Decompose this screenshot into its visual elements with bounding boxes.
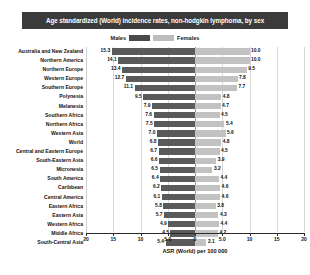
male-value-label: 7.9 [144,104,151,109]
table-row: Western Africa4.94.4 [0,220,310,229]
category-label: Eastern Asia [0,213,86,218]
female-bar-group: 4.8 [195,139,229,145]
female-bar [195,185,220,191]
female-bar-group: 4.6 [195,185,228,191]
bar-pair: 5.74.3 [86,211,304,220]
female-value-label: 9.5 [248,67,255,72]
bar-pair: 6.44.4 [86,174,304,183]
bar-pair: 6.84.8 [86,138,304,147]
male-bar [112,48,195,54]
category-label: World [0,140,86,145]
category-label: Southern Europe [0,85,86,90]
male-value-label: 11.1 [124,85,133,90]
legend-swatch-females [153,35,174,41]
table-row: Melanesia7.94.7 [0,102,310,111]
bar-pair: 7.55.4 [86,120,304,129]
female-value-label: 7.8 [239,76,246,81]
male-value-label: 7.6 [145,113,152,118]
female-value-label: 10.0 [251,58,261,63]
female-value-label: 3.2 [214,167,221,172]
female-bar [195,176,219,182]
male-bar-group: 6.5 [151,167,195,173]
bar-pair: 6.74.5 [86,147,304,156]
female-value-label: 4.8 [223,140,230,145]
category-label: South-Eastern Asia [0,158,86,163]
male-value-label: 6.5 [151,167,158,172]
male-bar [164,212,195,218]
female-value-label: 3.8 [217,204,224,209]
male-bar-group: 15.3 [101,48,195,54]
chart-container: Age standardized (World) incidence rates… [0,0,310,275]
female-bar-group: 3.9 [195,158,225,164]
category-label: South-Central Asia [0,240,86,245]
category-label: Northern America [0,58,86,63]
bar-pair: 14.110.0 [86,56,304,65]
female-bar-group: 4.4 [195,221,227,227]
x-axis-title: ASR (World) per 100 000 [86,248,304,254]
table-row: Micronesia6.53.2 [0,165,310,174]
bar-pair: 11.17.7 [86,83,304,92]
bar-pair: 6.14.6 [86,193,304,202]
female-value-label: 7.7 [238,85,245,90]
female-bar-group: 10.0 [195,57,261,63]
female-bar [195,148,220,154]
table-row: Southern Africa7.64.5 [0,111,310,120]
x-axis: 2015105.005.0101520 [86,233,304,243]
male-bar-group: 6.1 [153,194,195,200]
legend-label-females: Females [177,35,199,41]
table-row: South-Eastern Asia6.63.9 [0,156,310,165]
male-value-label: 9.5 [135,95,142,100]
female-bar-group: 5.6 [195,130,234,136]
female-bar-group: 4.5 [195,112,228,118]
female-bar [195,57,250,63]
male-value-label: 12.7 [115,76,125,81]
female-value-label: 3.9 [218,158,225,163]
female-value-label: 10.0 [251,49,261,54]
axis-tick-label: 10 [138,236,144,242]
table-row: South America6.44.4 [0,174,310,183]
male-bar [126,76,195,82]
female-bar-group: 4.3 [195,212,227,218]
axis-tick-label: 5.0 [164,236,171,242]
category-label: Micronesia [0,167,86,172]
male-bar-group: 9.5 [135,94,195,100]
male-bar [135,85,195,91]
male-bar-group: 13.4 [111,67,195,73]
female-value-label: 4.6 [222,185,229,190]
female-bar-group: 9.5 [195,67,255,73]
female-bar-group: 7.7 [195,85,245,91]
male-bar [163,203,195,209]
category-label: Central and Eastern Europe [0,149,86,154]
male-bar-group: 6.7 [150,148,195,154]
male-value-label: 5.7 [156,213,163,218]
male-bar-group: 11.1 [124,85,195,91]
male-value-label: 6.7 [150,149,157,154]
male-value-label: 7.5 [146,122,153,127]
plot-left-border [86,47,87,233]
category-label: Western Asia [0,131,86,136]
bar-pair: 6.24.6 [86,183,304,192]
category-label: Southern Africa [0,113,86,118]
chart-title-bar: Age standardized (World) incidence rates… [22,12,288,29]
female-value-label: 4.4 [220,176,227,181]
male-bar [157,130,195,136]
axis-tick-label: 15 [110,236,116,242]
male-value-label: 14.1 [107,58,117,63]
female-bar [195,139,221,145]
male-bar-group: 6.2 [153,185,195,191]
male-bar-group: 4.9 [160,221,195,227]
axis-tick-label: 10 [247,236,253,242]
bar-pair: 12.77.8 [86,74,304,83]
category-label: Western Europe [0,76,86,81]
bar-pair: 5.83.8 [86,202,304,211]
female-bar-group: 3.2 [195,167,221,173]
male-value-label: 6.1 [153,195,160,200]
female-value-label: 5.4 [226,122,233,127]
legend-label-males: Males [111,35,127,41]
male-bar-group: 7.5 [146,121,195,127]
table-row: Northern Africa7.55.4 [0,120,310,129]
male-value-label: 6.6 [151,158,158,163]
axis-tick-label: 0 [194,236,197,242]
male-bar-group: 6.6 [151,158,195,164]
category-label: Northern Africa [0,122,86,127]
